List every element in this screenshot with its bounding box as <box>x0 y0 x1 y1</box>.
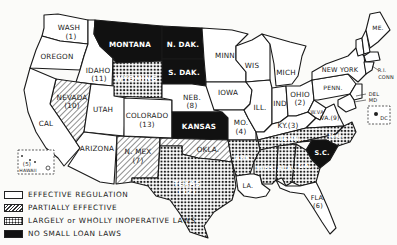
state-kansas: KANSAS <box>172 112 228 140</box>
inset-hawaii: (5) HAWAII <box>18 150 54 174</box>
svg-text:WYOMING: WYOMING <box>115 74 157 83</box>
legend-item-partial: PARTIALLY EFFECTIVE <box>4 201 196 214</box>
svg-text:ARIZONA: ARIZONA <box>80 144 114 153</box>
svg-text:NEW YORK: NEW YORK <box>322 66 359 74</box>
state-connecticut <box>364 62 374 74</box>
svg-text:(8): (8) <box>187 101 198 110</box>
svg-text:ME.: ME. <box>372 24 383 31</box>
swatch-none <box>4 230 23 238</box>
svg-text:TENN.: TENN. <box>278 135 301 143</box>
svg-text:HAWAII: HAWAII <box>19 168 36 173</box>
state-north-dakota: N. DAK. <box>162 26 204 59</box>
svg-text:VA.(9): VA.(9) <box>320 114 339 121</box>
svg-text:COLORADO: COLORADO <box>126 111 169 120</box>
svg-text:PENN.: PENN. <box>323 84 342 91</box>
svg-text:UTAH: UTAH <box>93 105 113 114</box>
svg-text:MD: MD <box>369 97 378 103</box>
svg-text:(6): (6) <box>313 202 323 210</box>
svg-text:ARK.: ARK. <box>235 154 253 162</box>
state-iowa: IOWA <box>206 82 252 110</box>
svg-text:OREGON: OREGON <box>41 52 74 61</box>
state-maine: ME. <box>366 12 390 48</box>
state-florida: FLA. (6) <box>276 180 336 234</box>
inset-dc: DC <box>368 106 390 124</box>
swatch-effective <box>4 191 23 199</box>
state-south-dakota: S. DAK. <box>162 59 206 86</box>
svg-text:MO.: MO. <box>234 118 248 127</box>
svg-text:(1): (1) <box>66 32 77 41</box>
state-wyoming: WYOMING <box>113 58 162 98</box>
legend-item-effective: EFFECTIVE REGULATION <box>4 188 196 201</box>
svg-text:ILL.: ILL. <box>253 103 266 112</box>
svg-text:MONTANA: MONTANA <box>109 40 151 49</box>
svg-text:MISS.: MISS. <box>256 164 276 171</box>
svg-text:(10): (10) <box>64 101 80 110</box>
svg-text:(7): (7) <box>133 156 144 165</box>
svg-text:MINN: MINN <box>215 51 235 60</box>
svg-text:N.C.: N.C. <box>329 132 344 139</box>
us-small-loan-law-map: WASH (1) OREGON IDAHO (11) MONTANA N. DA… <box>0 0 397 245</box>
svg-text:KY.(3): KY.(3) <box>277 121 298 130</box>
svg-text:DC: DC <box>380 115 388 121</box>
svg-text:(2): (2) <box>295 98 306 107</box>
svg-text:CAL: CAL <box>39 119 54 128</box>
svg-text:IND: IND <box>273 99 287 108</box>
svg-text:LA.: LA. <box>243 182 254 190</box>
svg-text:(5): (5) <box>23 161 31 167</box>
svg-text:MICH: MICH <box>276 68 296 77</box>
svg-text:(4): (4) <box>236 127 247 136</box>
legend-item-inoperative: LARGELY or WHOLLY INOPERATIVE LAWS <box>4 214 196 227</box>
svg-text:WASH: WASH <box>58 23 80 32</box>
svg-text:CONN: CONN <box>378 74 394 80</box>
state-new-mexico: N. MEX (7) <box>116 136 160 184</box>
swatch-partial <box>4 204 23 212</box>
svg-text:N. MEX: N. MEX <box>125 147 152 156</box>
map-legend: EFFECTIVE REGULATION PARTIALLY EFFECTIVE… <box>4 188 196 240</box>
svg-text:S. DAK.: S. DAK. <box>168 68 200 77</box>
svg-text:(11): (11) <box>91 74 107 83</box>
state-colorado: COLORADO (13) <box>124 98 172 138</box>
svg-text:IOWA: IOWA <box>218 88 238 97</box>
swatch-inoperative <box>4 217 23 225</box>
svg-text:GA.: GA. <box>298 162 312 170</box>
svg-text:OKLA.: OKLA. <box>197 145 220 154</box>
svg-text:WIS: WIS <box>245 61 260 70</box>
svg-text:ALA.: ALA. <box>277 164 295 172</box>
svg-text:R.I.: R.I. <box>378 67 387 73</box>
svg-text:KANSAS: KANSAS <box>182 122 216 131</box>
svg-text:FLA.: FLA. <box>311 194 326 202</box>
svg-text:N. DAK.: N. DAK. <box>167 40 199 49</box>
legend-item-none: NO SMALL LOAN LAWS <box>4 227 196 240</box>
svg-text:(13): (13) <box>139 120 155 129</box>
svg-text:S.C.: S.C. <box>314 149 329 157</box>
